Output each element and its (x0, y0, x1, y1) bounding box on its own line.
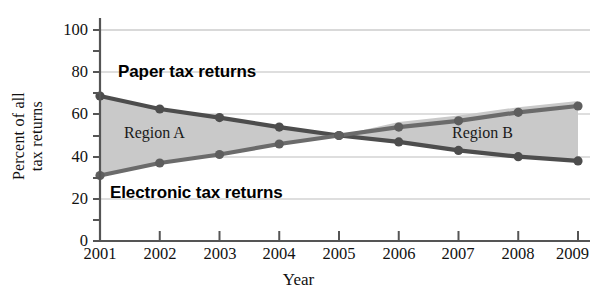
x-tick-label-2009: 2009 (548, 244, 597, 264)
data-point (155, 158, 164, 167)
x-tick-label-2006: 2006 (369, 244, 429, 264)
x-tick-label-2002: 2002 (130, 244, 190, 264)
data-point (394, 123, 403, 132)
data-point (573, 156, 582, 165)
x-tick-label-2007: 2007 (428, 244, 488, 264)
data-point (155, 104, 164, 113)
y-tick-label-40: 40 (40, 147, 88, 167)
x-tick-label-2003: 2003 (190, 244, 250, 264)
data-point (275, 123, 284, 132)
data-point (514, 152, 523, 161)
series-label-paper-tax-returns: Paper tax returns (118, 62, 256, 82)
data-point (215, 113, 224, 122)
data-point (514, 108, 523, 117)
y-tick-label-100: 100 (40, 20, 88, 40)
data-point (454, 146, 463, 155)
region-label-b: Region B (452, 124, 513, 142)
data-point (573, 101, 582, 110)
x-axis-title: Year (0, 270, 597, 290)
x-tick-label-2001: 2001 (70, 244, 130, 264)
y-axis-title-line-1: Percent of all (10, 92, 28, 180)
y-tick-label-20: 20 (40, 189, 88, 209)
series-label-electronic-tax-returns: Electronic tax returns (110, 183, 283, 203)
data-point (334, 131, 343, 140)
x-tick-label-2008: 2008 (488, 244, 548, 264)
y-tick-label-60: 60 (40, 104, 88, 124)
region-label-a: Region A (124, 124, 185, 142)
x-tick-label-2005: 2005 (309, 244, 369, 264)
data-point (394, 137, 403, 146)
x-axis-ticks (160, 231, 578, 241)
data-point (275, 139, 284, 148)
data-point (215, 150, 224, 159)
y-tick-label-80: 80 (40, 62, 88, 82)
chart-container: Percent of all tax returns 100 80 60 40 … (0, 0, 597, 295)
x-tick-label-2004: 2004 (249, 244, 309, 264)
